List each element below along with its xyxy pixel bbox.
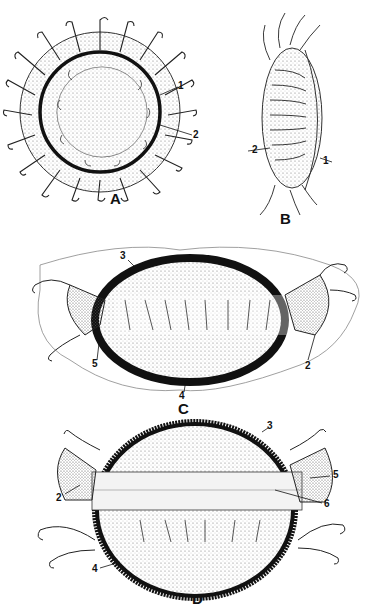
figure-d-label: D <box>192 590 203 607</box>
callout-d-4: 4 <box>92 563 98 574</box>
figure-a: 1 2 A <box>0 0 200 205</box>
callout-d-6: 6 <box>324 498 330 509</box>
figure-b-label: B <box>280 210 291 227</box>
callout-a-1: 1 <box>178 80 184 91</box>
callout-b-1: 1 <box>323 155 329 166</box>
callout-c-5: 5 <box>92 358 98 369</box>
figure-a-drawing <box>0 0 200 205</box>
callout-a-2: 2 <box>193 129 199 140</box>
figure-b: 2 1 B <box>230 0 369 230</box>
figure-c: 3 5 2 4 C <box>0 230 369 410</box>
callout-c-3: 3 <box>120 250 126 261</box>
figure-a-label: A <box>110 190 121 207</box>
callout-d-2: 2 <box>56 492 62 503</box>
callout-b-2: 2 <box>252 144 258 155</box>
callout-d-5: 5 <box>333 469 339 480</box>
figure-d-drawing <box>0 410 369 614</box>
figure-b-drawing <box>230 0 369 230</box>
figure-c-drawing <box>0 230 369 410</box>
callout-c-2: 2 <box>305 360 311 371</box>
callout-d-3: 3 <box>267 420 273 431</box>
figure-d: 3 2 5 6 4 D <box>0 410 369 614</box>
